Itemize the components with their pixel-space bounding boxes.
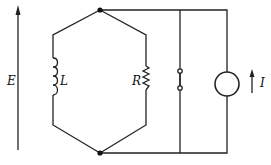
bottom-wire <box>100 96 227 153</box>
label-I: I <box>260 76 265 90</box>
circuit-diagram: E L R I <box>0 0 271 165</box>
right-branch-wire <box>100 10 146 66</box>
label-L: L <box>60 74 68 88</box>
bottom-node <box>97 150 102 155</box>
label-E: E <box>7 74 16 88</box>
top-node <box>97 7 102 12</box>
top-wire <box>100 10 227 72</box>
label-R: R <box>132 74 141 88</box>
inductor-icon <box>53 58 58 95</box>
current-source-icon <box>215 72 239 96</box>
resistor-icon <box>143 66 149 90</box>
left-branch-wire <box>53 10 100 58</box>
